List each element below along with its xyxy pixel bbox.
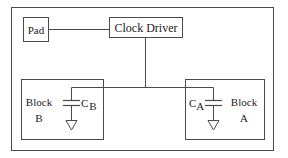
ground-a-icon bbox=[208, 121, 219, 131]
block-a-label-line1: Block bbox=[231, 96, 258, 108]
block-b-label-line2: B bbox=[35, 112, 42, 124]
block-a-label-line2: A bbox=[240, 112, 248, 124]
capacitor-cb-icon bbox=[63, 88, 80, 121]
pad-label: Pad bbox=[28, 24, 45, 36]
block-a-node: Block A CA bbox=[186, 80, 265, 140]
cap-cb-label: CB bbox=[81, 97, 97, 112]
clock-distribution-diagram: Pad Clock Driver Block B CB Block A bbox=[0, 0, 288, 158]
pad-node: Pad bbox=[24, 18, 49, 42]
clock-driver-node: Clock Driver bbox=[110, 18, 183, 38]
block-b-label-line1: Block bbox=[26, 96, 53, 108]
cap-ca-label: CA bbox=[189, 97, 204, 112]
block-b-node: Block B CB bbox=[22, 80, 104, 140]
clock-driver-label: Clock Driver bbox=[115, 21, 178, 35]
capacitor-ca-icon bbox=[205, 88, 222, 121]
ground-b-icon bbox=[66, 121, 77, 131]
